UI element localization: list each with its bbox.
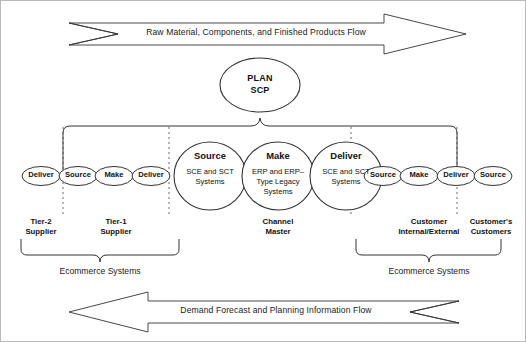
scor-oval-right-1 <box>364 167 402 186</box>
scor-oval-left-2 <box>59 167 97 186</box>
process-circle-source <box>174 142 246 210</box>
scor-oval-left-1 <box>22 167 60 186</box>
top-flow-arrow <box>69 14 466 54</box>
plan-scp-ellipse <box>220 58 300 112</box>
diagram-vector-layer <box>1 1 526 342</box>
scor-oval-right-3 <box>437 167 475 186</box>
process-circle-make <box>242 142 314 210</box>
ecommerce-brace-left <box>21 239 179 262</box>
scor-oval-right-4 <box>474 167 512 186</box>
scor-oval-left-4 <box>132 167 170 186</box>
diagram-canvas: Raw Material, Components, and Finished P… <box>0 0 526 342</box>
bottom-flow-arrow <box>69 292 459 332</box>
scor-oval-left-3 <box>95 167 133 186</box>
ecommerce-brace-right <box>356 239 501 262</box>
scor-oval-right-2 <box>400 167 438 186</box>
